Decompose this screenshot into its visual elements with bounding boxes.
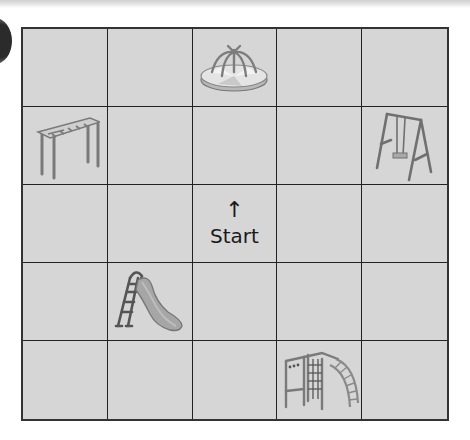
grid-cell-r4-c3 — [277, 341, 362, 419]
grid-cell-r2-c1 — [108, 185, 193, 263]
grid-cell-r3-c4 — [362, 263, 447, 341]
grid-cell-r0-c2 — [193, 29, 278, 107]
grid-cell-r3-c0 — [23, 263, 108, 341]
grid-cell-r3-c2 — [193, 263, 278, 341]
grid-cell-r2-c0 — [23, 185, 108, 263]
grid-cell-r2-c4 — [362, 185, 447, 263]
grid-cell-r1-c1 — [108, 107, 193, 185]
grid-cell-r4-c1 — [108, 341, 193, 419]
roundabout-icon — [198, 42, 270, 94]
playground-grid: ↑ Start — [21, 27, 449, 421]
slide-icon — [112, 268, 188, 336]
grid-cell-r2-c3 — [277, 185, 362, 263]
grid-cell-r3-c3 — [277, 263, 362, 341]
grid-cell-r1-c3 — [277, 107, 362, 185]
grid-cell-r4-c0 — [23, 341, 108, 419]
grid-cell-r1-c2 — [193, 107, 278, 185]
grid-cell-r3-c1 — [108, 263, 193, 341]
grid-cell-r0-c4 — [362, 29, 447, 107]
grid-cell-r2-c2: ↑ Start — [193, 185, 278, 263]
start-label: Start — [210, 223, 259, 249]
monkey-bars-icon — [30, 110, 100, 182]
top-strip — [0, 0, 470, 8]
question-number-badge — [0, 18, 12, 64]
grid-cell-r1-c0 — [23, 107, 108, 185]
swing-icon — [375, 110, 435, 182]
climbing-frame-icon — [278, 349, 360, 411]
grid-cell-r1-c4 — [362, 107, 447, 185]
grid-cell-r4-c4 — [362, 341, 447, 419]
grid-cell-r0-c0 — [23, 29, 108, 107]
start-marker: ↑ Start — [210, 199, 259, 249]
grid-cell-r0-c3 — [277, 29, 362, 107]
grid-cell-r0-c1 — [108, 29, 193, 107]
grid-cell-r4-c2 — [193, 341, 278, 419]
up-arrow-icon: ↑ — [225, 199, 243, 221]
